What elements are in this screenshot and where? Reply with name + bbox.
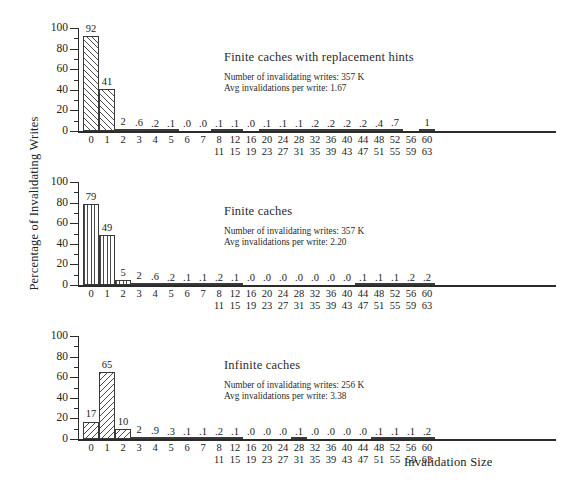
y-tick-label: 100 xyxy=(28,176,68,188)
bar-value-label: .0 xyxy=(247,273,255,284)
bar xyxy=(147,437,163,439)
x-axis-line xyxy=(78,131,556,133)
y-tick-major xyxy=(70,439,79,440)
bar-value-label: .2 xyxy=(423,427,431,438)
bar-value-label: .1 xyxy=(231,273,239,284)
x-tick-label: 1215 xyxy=(230,443,241,465)
x-axis-line xyxy=(78,285,556,287)
bar-value-label: .2 xyxy=(215,273,223,284)
y-tick-major xyxy=(70,131,79,132)
y-tick-major xyxy=(70,244,79,245)
bar xyxy=(147,283,163,285)
y-tick-minor xyxy=(74,388,79,389)
bar-value-label: .0 xyxy=(343,427,351,438)
y-tick-minor xyxy=(74,367,79,368)
bar-value-label: .1 xyxy=(183,273,191,284)
x-tick-label: 2 xyxy=(120,135,125,146)
y-tick-label: 40 xyxy=(28,84,68,96)
x-axis-line xyxy=(78,439,556,441)
bar xyxy=(115,129,131,131)
x-tick-label: 4851 xyxy=(374,289,385,311)
bar-value-label: .1 xyxy=(231,119,239,130)
x-tick-label: 2427 xyxy=(278,135,289,157)
bar-value-label: .2 xyxy=(343,119,351,130)
bar-value-label: .1 xyxy=(183,427,191,438)
bar-value-label: .1 xyxy=(263,119,271,130)
x-tick-label: 2023 xyxy=(262,443,273,465)
bar xyxy=(163,283,179,285)
bar-value-label: .0 xyxy=(279,273,287,284)
x-tick-label: 3639 xyxy=(326,135,337,157)
x-tick-label: 2831 xyxy=(294,443,305,465)
x-tick-label: 2831 xyxy=(294,135,305,157)
bar-value-label: .1 xyxy=(295,119,303,130)
bar-value-label: .2 xyxy=(423,273,431,284)
x-tick-label: 2023 xyxy=(262,135,273,157)
bar-value-label: .2 xyxy=(327,119,335,130)
bar-value-label: .1 xyxy=(375,427,383,438)
bar xyxy=(99,235,115,285)
bar-value-label: .9 xyxy=(151,426,159,437)
y-tick-major xyxy=(70,398,79,399)
x-tick-label: 1 xyxy=(104,135,109,146)
bar xyxy=(99,89,115,131)
chart-panel-finite: 0123456781112151619202324272831323536394… xyxy=(0,168,573,323)
x-tick-label: 4851 xyxy=(374,135,385,157)
x-tick-label: 4 xyxy=(152,289,157,300)
y-tick-major xyxy=(70,264,79,265)
chart-panel-finite-hints: 0123456781112151619202324272831323536394… xyxy=(0,14,573,169)
bar-value-label: .0 xyxy=(327,427,335,438)
bar xyxy=(83,422,99,440)
y-tick-label: 80 xyxy=(28,351,68,363)
x-tick-label: 1619 xyxy=(246,443,257,465)
bar-value-label: .1 xyxy=(215,119,223,130)
bar-value-label: 65 xyxy=(102,360,113,371)
y-tick-label: 40 xyxy=(28,238,68,250)
bar-value-label: .2 xyxy=(167,273,175,284)
annotation-block: Infinite caches Number of invalidating w… xyxy=(224,358,364,402)
bar-value-label: .3 xyxy=(167,427,175,438)
bar-value-label: .0 xyxy=(183,119,191,130)
x-tick-label: 1619 xyxy=(246,135,257,157)
x-tick-label: 6 xyxy=(184,443,189,454)
y-tick-label: 100 xyxy=(28,22,68,34)
bar xyxy=(147,129,163,131)
y-tick-minor xyxy=(74,254,79,255)
bar-value-label: .0 xyxy=(263,427,271,438)
x-tick-label: 4851 xyxy=(374,443,385,465)
y-tick-major xyxy=(70,90,79,91)
y-tick-minor xyxy=(74,429,79,430)
x-tick-label: 7 xyxy=(200,289,205,300)
y-tick-label: 60 xyxy=(28,63,68,75)
x-tick-label: 3235 xyxy=(310,443,321,465)
bar-value-label: .0 xyxy=(295,273,303,284)
y-tick-minor xyxy=(74,213,79,214)
bar-value-label: 2 xyxy=(136,271,141,282)
x-tick-label: 6 xyxy=(184,135,189,146)
bar-value-label: .1 xyxy=(391,273,399,284)
x-tick-label: 3235 xyxy=(310,135,321,157)
x-tick-label: 4447 xyxy=(358,135,369,157)
bar xyxy=(163,437,179,439)
bar-value-label: .1 xyxy=(375,273,383,284)
bar xyxy=(323,129,339,131)
x-tick-label: 3235 xyxy=(310,289,321,311)
x-tick-label: 4447 xyxy=(358,289,369,311)
x-tick-label: 6063 xyxy=(422,289,433,311)
stat-avg-invalidations: Avg invalidations per write: 2.20 xyxy=(224,237,364,248)
annotation-block: Finite caches with replacement hints Num… xyxy=(224,50,414,94)
y-tick-label: 0 xyxy=(28,125,68,137)
stat-invalidating-writes: Number of invalidating writes: 357 K xyxy=(224,226,364,237)
y-tick-minor xyxy=(74,100,79,101)
bar-value-label: .1 xyxy=(407,427,415,438)
bar xyxy=(419,129,435,131)
bar-value-label: .0 xyxy=(327,273,335,284)
bar-value-label: .6 xyxy=(135,118,143,129)
bar-value-label: .0 xyxy=(311,273,319,284)
bar-value-label: .1 xyxy=(199,427,207,438)
y-tick-minor xyxy=(74,38,79,39)
x-tick-label: 5659 xyxy=(406,289,417,311)
x-tick-label: 7 xyxy=(200,443,205,454)
y-tick-minor xyxy=(74,192,79,193)
bar-value-label: .0 xyxy=(359,427,367,438)
